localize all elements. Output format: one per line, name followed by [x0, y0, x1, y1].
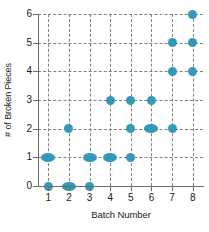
x-axis-tick-labels: 12345678 — [0, 192, 209, 206]
x-axis-title: Batch Number — [38, 209, 204, 220]
data-point — [64, 124, 73, 133]
x-axis-tick — [48, 186, 49, 191]
x-axis-tick-label: 1 — [39, 192, 57, 204]
data-point — [144, 124, 158, 133]
x-axis-tick — [90, 186, 91, 191]
x-axis-tick — [131, 186, 132, 191]
data-point — [106, 96, 115, 105]
gridline-horizontal — [38, 100, 203, 101]
y-axis-tick-label: 3 — [16, 95, 32, 105]
x-axis-tick-label: 6 — [142, 192, 160, 204]
gridline-horizontal — [38, 71, 203, 72]
y-axis-tick-label: 5 — [16, 38, 32, 48]
gridline-horizontal — [38, 14, 203, 15]
data-point — [168, 67, 177, 76]
data-point — [83, 153, 97, 162]
x-axis-tick-label: 5 — [122, 192, 140, 204]
data-point — [126, 96, 135, 105]
data-point — [188, 38, 197, 47]
data-point — [103, 153, 117, 162]
y-axis-tick — [33, 14, 38, 15]
gridline-horizontal — [38, 157, 203, 158]
data-point — [41, 153, 55, 162]
x-axis-tick-label: 3 — [81, 192, 99, 204]
x-axis-tick-label: 8 — [184, 192, 202, 204]
x-axis-tick-label: 2 — [60, 192, 78, 204]
x-axis-tick — [151, 186, 152, 191]
y-axis-tick — [33, 100, 38, 101]
y-axis-tick-label: 0 — [16, 181, 32, 191]
x-axis-tick — [193, 186, 194, 191]
x-axis-tick — [69, 186, 70, 191]
y-axis-tick — [33, 71, 38, 72]
gridline-horizontal — [38, 129, 203, 130]
data-point — [126, 153, 135, 162]
dot-plot-chart: # of Broken Pieces 0123456 12345678 Batc… — [0, 0, 209, 232]
y-axis-tick-label: 4 — [16, 66, 32, 76]
gridline-horizontal — [38, 43, 203, 44]
y-axis-line — [38, 14, 39, 186]
y-axis-tick — [33, 186, 38, 187]
data-point — [126, 124, 135, 133]
y-axis-tick — [33, 157, 38, 158]
x-axis-tick-label: 7 — [163, 192, 181, 204]
y-axis-tick-label: 2 — [16, 124, 32, 134]
data-point — [168, 38, 177, 47]
x-axis-tick — [172, 186, 173, 191]
y-axis-tick-label: 1 — [16, 152, 32, 162]
y-axis-tick — [33, 43, 38, 44]
data-point — [188, 67, 197, 76]
y-axis-tick-label: 6 — [16, 9, 32, 19]
data-point — [147, 96, 156, 105]
y-axis-tick — [33, 129, 38, 130]
data-point — [168, 124, 177, 133]
x-axis-tick — [110, 186, 111, 191]
x-axis-tick-label: 4 — [101, 192, 119, 204]
data-point — [188, 10, 197, 19]
plot-area — [38, 14, 203, 186]
x-axis-line — [38, 186, 204, 187]
gridline-vertical — [69, 14, 70, 186]
y-axis-title: # of Broken Pieces — [1, 5, 15, 195]
